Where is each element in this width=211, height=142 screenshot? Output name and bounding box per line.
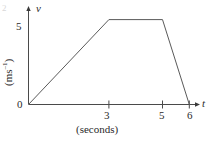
- y-axis-name-label: v: [36, 3, 41, 14]
- origin-label: 0: [17, 99, 23, 110]
- x-axis-name-label: t: [202, 98, 205, 109]
- y-axis-unit-exponent: –1: [1, 63, 9, 70]
- x-axis-caption-label: (seconds): [76, 124, 118, 135]
- x-tick-label-3: 3: [104, 110, 110, 121]
- y-axis-arrow-icon: [26, 6, 30, 11]
- x-tick-label-6: 6: [187, 110, 193, 121]
- velocity-time-plot-line: [29, 20, 190, 105]
- y-axis-unit-label: (ms–1): [2, 59, 14, 86]
- y-tick-label-5: 5: [16, 21, 22, 32]
- x-tick-label-5: 5: [159, 110, 165, 121]
- velocity-time-graph-figure: 2 v t 5 0 3 5 6 (ms–1) (seconds): [0, 0, 211, 142]
- x-axis-arrow-icon: [195, 102, 200, 106]
- y-axis-unit-suffix: ): [2, 59, 14, 63]
- y-axis-unit-prefix: (ms: [2, 70, 14, 87]
